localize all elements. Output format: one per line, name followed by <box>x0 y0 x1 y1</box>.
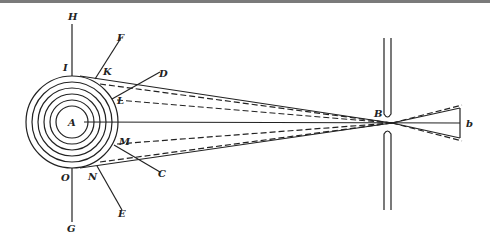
label-E: E <box>117 208 126 219</box>
label-I: I <box>62 62 68 73</box>
label-G: G <box>67 223 76 234</box>
label-F: F <box>116 32 125 43</box>
optics-diagram: H I F K D L A M C N O E G B b <box>0 0 490 241</box>
label-N: N <box>87 171 98 182</box>
label-K: K <box>102 66 113 77</box>
line-NE <box>97 166 122 210</box>
label-O: O <box>61 172 70 183</box>
label-b: b <box>466 118 473 129</box>
label-D: D <box>158 68 168 79</box>
label-B: B <box>373 108 382 119</box>
label-H: H <box>67 11 78 22</box>
label-C: C <box>158 168 166 179</box>
label-A: A <box>67 117 76 128</box>
label-L: L <box>116 95 124 106</box>
line-MC <box>114 145 160 172</box>
label-M: M <box>118 136 131 147</box>
axis-AB <box>84 122 460 123</box>
ray-top-solid <box>80 76 392 123</box>
